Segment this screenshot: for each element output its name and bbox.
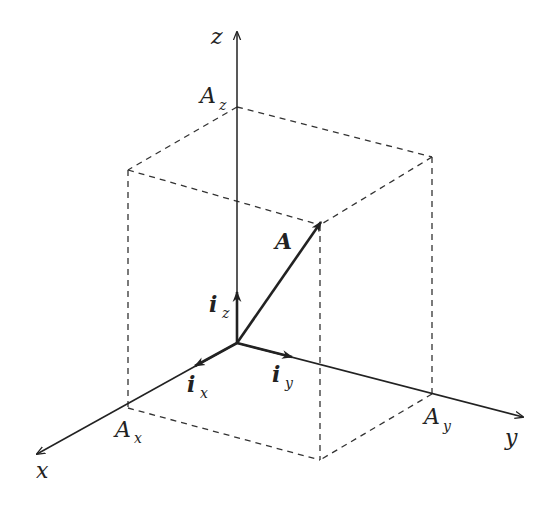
iz-label: i <box>209 291 217 317</box>
bottom-edge-ax-front <box>128 408 320 460</box>
az-label-subscript: z <box>218 97 227 113</box>
x-axis-label: x <box>36 458 49 483</box>
y-axis-label: y <box>504 425 518 450</box>
unit-vector-ix <box>195 343 237 366</box>
top-edge-right-front <box>320 157 432 225</box>
dashed-box <box>128 107 432 460</box>
iy-label: i <box>272 361 280 387</box>
iy-label-subscript: y <box>284 375 294 391</box>
ax-label-subscript: x <box>134 430 142 446</box>
ay-label: A <box>422 404 440 429</box>
ix-label-subscript: x <box>200 385 208 401</box>
top-edge-left-front <box>128 170 320 225</box>
vector-diagram: z x y A z A x A y A i z i x i y <box>0 0 557 515</box>
z-axis-label: z <box>210 24 223 49</box>
ay-label-subscript: y <box>442 418 452 434</box>
ix-label: i <box>187 371 195 397</box>
bottom-edge-ay-front <box>320 394 432 460</box>
iz-label-subscript: z <box>221 305 230 321</box>
vector-a-label: A <box>273 228 292 254</box>
ax-label: A <box>113 417 131 442</box>
top-edge-az-left <box>128 107 237 170</box>
top-edge-az-right <box>237 107 432 157</box>
unit-vector-iy <box>237 343 292 357</box>
az-label: A <box>198 83 216 108</box>
